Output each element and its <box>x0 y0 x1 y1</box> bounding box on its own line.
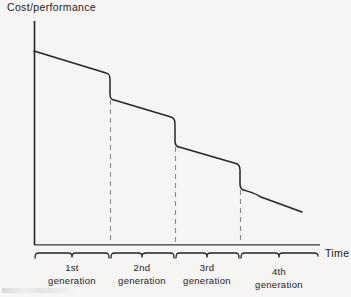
generation-word: generation <box>42 275 102 288</box>
generation-word: generation <box>177 275 237 288</box>
generation-word: generation <box>112 275 172 288</box>
generation-label-3: 3rd generation <box>177 262 237 287</box>
generation-label-1: 1st generation <box>42 262 102 287</box>
generation-ordinal: 1st <box>42 262 102 275</box>
scan-artifact <box>2 288 76 293</box>
y-axis-label: Cost/performance <box>7 1 96 13</box>
generation-word: generation <box>249 279 309 292</box>
generation-ordinal: 3rd <box>177 262 237 275</box>
generation-ordinal: 2nd <box>112 262 172 275</box>
x-axis-label: Time <box>325 247 349 259</box>
generation-ordinal: 4th <box>249 266 309 279</box>
generation-label-2: 2nd generation <box>112 262 172 287</box>
generation-label-4: 4th generation <box>249 266 309 291</box>
cost-performance-chart <box>0 0 351 297</box>
